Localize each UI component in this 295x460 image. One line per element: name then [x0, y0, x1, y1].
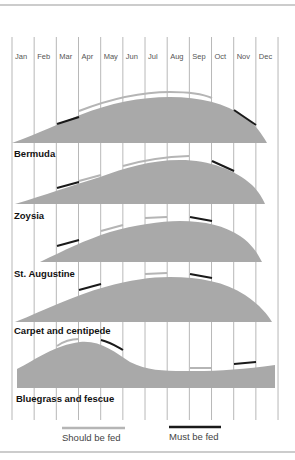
month-label-dec: Dec: [259, 52, 273, 61]
growth-area: [12, 97, 267, 143]
month-label-jul: Jul: [148, 52, 158, 61]
growth-area: [15, 160, 265, 204]
month-label-apr: Apr: [82, 52, 94, 61]
lawn-feeding-chart: JanFebMarAprMayJunJulAugSepOctNovDec Ber…: [0, 0, 295, 460]
series-label: Zoysia: [14, 210, 45, 221]
month-label-jun: Jun: [126, 52, 138, 61]
month-label-oct: Oct: [215, 52, 228, 61]
must-be-fed-line: [190, 217, 212, 221]
must-be-fed-line: [57, 240, 79, 246]
series-carpet-centipede: Carpet and centipede: [14, 273, 272, 336]
month-label-nov: Nov: [237, 52, 251, 61]
should-be-fed-line: [145, 217, 167, 218]
series-label: Bermuda: [14, 148, 56, 159]
month-label-aug: Aug: [170, 52, 183, 61]
month-label-mar: Mar: [59, 52, 72, 61]
legend-must-label: Must be fed: [169, 431, 219, 442]
should-be-fed-line: [145, 273, 167, 274]
must-be-fed-line: [234, 362, 256, 364]
month-label-sep: Sep: [192, 52, 205, 61]
must-be-fed-line: [190, 274, 212, 278]
month-label-may: May: [104, 52, 118, 61]
month-label-jan: Jan: [15, 52, 27, 61]
series-bluegrass-fescue: Bluegrass and fescue: [16, 339, 275, 404]
legend: Should be fed Must be fed: [62, 427, 221, 443]
month-label-feb: Feb: [37, 52, 50, 61]
series-zoysia: Zoysia: [14, 156, 265, 221]
growth-area: [17, 342, 275, 388]
series-st-augustine: St. Augustine: [14, 217, 262, 279]
series-label: Carpet and centipede: [14, 325, 111, 336]
series-label: St. Augustine: [14, 268, 75, 279]
legend-should-label: Should be fed: [62, 432, 121, 443]
series-bermuda: Bermuda: [12, 92, 267, 159]
series-label: Bluegrass and fescue: [16, 393, 114, 404]
